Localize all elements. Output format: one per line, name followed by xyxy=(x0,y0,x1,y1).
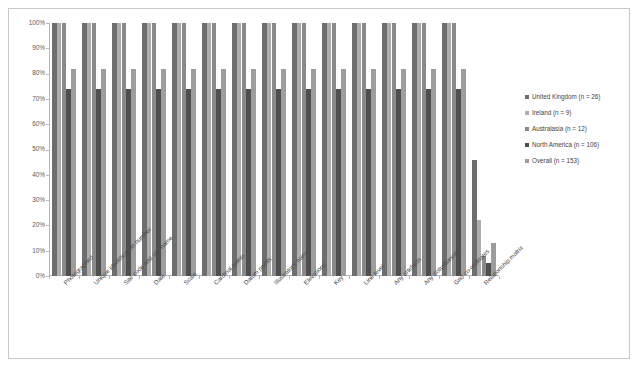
y-axis-tick-mark xyxy=(46,99,49,100)
bar[interactable] xyxy=(101,69,106,276)
bar-group xyxy=(112,23,136,276)
y-axis-tick-mark xyxy=(46,124,49,125)
legend-item[interactable]: United Kingdom (n = 26) xyxy=(525,93,629,100)
y-axis-tick-mark xyxy=(46,150,49,151)
bar[interactable] xyxy=(341,69,346,276)
bar[interactable] xyxy=(371,69,376,276)
y-axis-tick-mark xyxy=(46,251,49,252)
legend-swatch-icon xyxy=(525,143,529,147)
y-axis-tick-mark xyxy=(46,48,49,49)
chart-legend: United Kingdom (n = 26)Ireland (n = 9)Au… xyxy=(525,93,629,173)
bar-group xyxy=(52,23,76,276)
legend-swatch-icon xyxy=(525,159,529,163)
legend-swatch-icon xyxy=(525,95,529,99)
bar-group xyxy=(202,23,226,276)
bar[interactable] xyxy=(461,69,466,276)
bar-group xyxy=(382,23,406,276)
x-axis-labels: PhotographedUnique identification number… xyxy=(49,279,519,354)
legend-swatch-icon xyxy=(525,127,529,131)
y-axis-tick-label: 70% xyxy=(17,96,45,102)
chart-frame: 100%90%80%70%60%50%40%30%20%10%0% Photog… xyxy=(8,8,630,359)
legend-item[interactable]: Australasia (n = 12) xyxy=(525,125,629,132)
bar[interactable] xyxy=(311,69,316,276)
y-axis-tick-label: 90% xyxy=(17,45,45,51)
y-axis-tick-label: 100% xyxy=(17,20,45,26)
bar-group xyxy=(232,23,256,276)
legend-item-label: North America (n = 106) xyxy=(532,141,599,148)
bar-group xyxy=(172,23,196,276)
bar-group xyxy=(412,23,436,276)
y-axis-tick-label: 50% xyxy=(17,146,45,152)
legend-item[interactable]: Overall (n = 153) xyxy=(525,157,629,164)
bar[interactable] xyxy=(191,69,196,276)
bar[interactable] xyxy=(401,69,406,276)
legend-item[interactable]: North America (n = 106) xyxy=(525,141,629,148)
y-axis-tick-mark xyxy=(46,200,49,201)
y-axis-tick-label: 0% xyxy=(17,273,45,279)
y-axis-tick-label: 60% xyxy=(17,121,45,127)
bar-group xyxy=(292,23,316,276)
legend-item-label: Overall (n = 153) xyxy=(532,157,579,164)
y-axis-tick-label: 40% xyxy=(17,172,45,178)
bar[interactable] xyxy=(221,69,226,276)
bar[interactable] xyxy=(431,69,436,276)
bar-group xyxy=(262,23,286,276)
legend-item[interactable]: Ireland (n = 9) xyxy=(525,109,629,116)
legend-item-label: Ireland (n = 9) xyxy=(532,109,571,116)
bar[interactable] xyxy=(281,69,286,276)
y-axis-tick-mark xyxy=(46,23,49,24)
legend-item-label: Australasia (n = 12) xyxy=(532,125,587,132)
bar-group xyxy=(352,23,376,276)
bar-group xyxy=(82,23,106,276)
y-axis-tick-label: 20% xyxy=(17,222,45,228)
legend-swatch-icon xyxy=(525,111,529,115)
y-axis-tick-mark xyxy=(46,175,49,176)
bar[interactable] xyxy=(251,69,256,276)
y-axis-tick-mark xyxy=(46,74,49,75)
legend-item-label: United Kingdom (n = 26) xyxy=(532,93,600,100)
bar-group xyxy=(322,23,346,276)
bar-group xyxy=(442,23,466,276)
y-axis-tick-mark xyxy=(46,225,49,226)
y-axis-tick-label: 10% xyxy=(17,248,45,254)
plot-area: 100%90%80%70%60%50%40%30%20%10%0% xyxy=(49,23,499,276)
y-axis-line xyxy=(49,23,50,276)
bar-group xyxy=(142,23,166,276)
y-axis-tick-label: 80% xyxy=(17,70,45,76)
bar-group xyxy=(472,23,496,276)
y-axis-tick-label: 30% xyxy=(17,197,45,203)
bar[interactable] xyxy=(71,69,76,276)
